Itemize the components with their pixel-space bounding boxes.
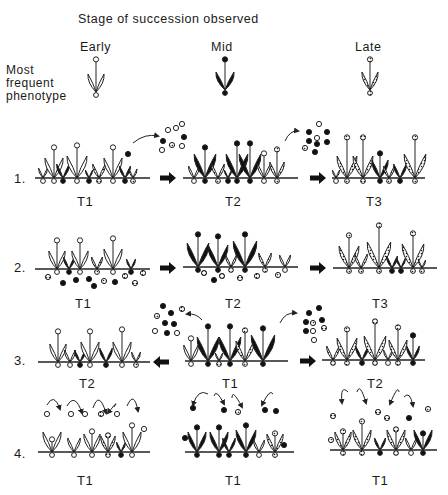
- seed-icon: [316, 121, 321, 126]
- leaf-icon: [198, 243, 209, 267]
- leaf-icon: [254, 440, 259, 452]
- arrow-left-icon: [153, 356, 169, 368]
- seed-icon: [44, 411, 49, 416]
- seed-icon: [375, 409, 380, 414]
- seed-icon: [281, 442, 286, 447]
- seed-icon: [314, 141, 319, 146]
- seed-icon: [52, 179, 57, 184]
- seed-icon: [114, 411, 119, 416]
- seed-icon: [74, 143, 79, 148]
- seed-icon: [321, 325, 326, 330]
- seed-icon: [306, 129, 311, 134]
- arrow-right-icon: [160, 262, 176, 274]
- seed-icon: [248, 179, 253, 184]
- seed-icon: [104, 363, 109, 368]
- leaf-icon: [372, 160, 380, 178]
- dispersal-arrow-icon: [404, 395, 413, 406]
- seed-icon: [123, 179, 128, 184]
- seed-icon: [341, 451, 346, 456]
- seed-icon: [49, 437, 54, 442]
- seed-icon: [112, 279, 117, 284]
- seed-icon: [90, 453, 95, 458]
- leaf-icon: [401, 258, 406, 268]
- seed-icon: [260, 326, 265, 331]
- seed-icon: [409, 451, 414, 456]
- leaf-icon: [335, 432, 343, 450]
- seed-icon: [376, 223, 381, 228]
- seed-icon: [226, 179, 231, 184]
- leaf-icon: [375, 438, 380, 450]
- leaf-icon: [224, 170, 228, 178]
- seed-icon: [393, 427, 398, 432]
- seed-icon: [182, 435, 187, 440]
- seed-icon: [237, 275, 242, 280]
- leaf-icon: [99, 164, 105, 178]
- seed-icon: [174, 330, 179, 335]
- leaf-icon: [226, 255, 231, 267]
- seed-icon: [263, 268, 268, 273]
- seed-icon: [110, 236, 115, 241]
- leaf-icon: [64, 257, 69, 269]
- seed-icon: [179, 121, 184, 126]
- seed-icon: [345, 179, 350, 184]
- seed-icon: [310, 320, 315, 325]
- seed-icon: [98, 411, 103, 416]
- seed-icon: [134, 363, 139, 368]
- leaf-icon: [126, 259, 131, 269]
- seed-icon: [216, 425, 221, 430]
- leaf-icon: [210, 432, 219, 452]
- leaf-icon: [339, 246, 349, 268]
- seed-icon: [87, 329, 92, 334]
- seed-icon: [105, 433, 110, 438]
- leaf-icon: [106, 348, 112, 362]
- leaf-icon: [212, 164, 218, 178]
- seed-icon: [344, 135, 349, 140]
- seed-icon: [243, 362, 248, 367]
- seed-icon: [377, 269, 382, 274]
- dispersal-arrow-icon: [262, 392, 273, 405]
- seed-icon: [367, 57, 372, 62]
- seed-icon: [219, 273, 224, 278]
- seed-icon: [164, 330, 169, 335]
- seed-icon: [111, 179, 116, 184]
- seed-icon: [203, 179, 208, 184]
- seed-icon: [120, 363, 125, 368]
- seed-icon: [345, 361, 350, 366]
- seed-icon: [89, 429, 94, 434]
- leaf-icon: [205, 154, 216, 178]
- seed-icon: [51, 145, 56, 150]
- seed-icon: [420, 269, 425, 274]
- seed-icon: [412, 135, 417, 140]
- leaf-icon: [216, 72, 225, 90]
- leaf-icon: [116, 442, 121, 452]
- seed-icon: [141, 426, 146, 431]
- seed-icon: [50, 453, 55, 458]
- leaf-icon: [92, 257, 97, 269]
- leaf-icon: [413, 346, 419, 360]
- seed-icon: [306, 138, 311, 143]
- seed-icon: [359, 419, 364, 424]
- seed-icon: [361, 179, 366, 184]
- seed-icon: [384, 415, 389, 420]
- seed-icon: [330, 413, 335, 418]
- seed-icon: [347, 269, 352, 274]
- seed-icon: [122, 273, 127, 278]
- seed-icon: [125, 151, 130, 156]
- leaf-icon: [113, 342, 122, 362]
- seed-icon: [196, 268, 201, 273]
- leaf-icon: [45, 158, 54, 178]
- arrow-right-icon: [300, 355, 316, 367]
- leaf-icon: [422, 260, 426, 268]
- seed-icon: [328, 437, 333, 442]
- leaf-icon: [265, 253, 271, 267]
- leaf-icon: [406, 438, 411, 450]
- leaf-icon: [264, 164, 270, 178]
- seed-icon: [411, 269, 416, 274]
- leaf-icon: [191, 345, 198, 361]
- seed-icon: [244, 453, 249, 458]
- leaf-icon: [396, 430, 405, 450]
- leaf-icon: [387, 256, 392, 268]
- seed-icon: [216, 268, 221, 273]
- seed-icon: [242, 232, 247, 237]
- seed-icon: [331, 361, 336, 366]
